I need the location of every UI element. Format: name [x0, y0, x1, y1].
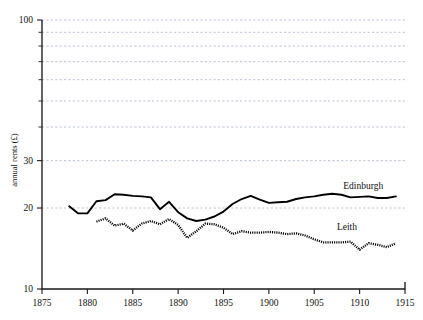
x-tick-label-1895: 1895	[214, 298, 233, 308]
y-tick-label-100: 100	[19, 15, 34, 25]
y-tick-label-30: 30	[24, 156, 34, 166]
x-tick-label-1900: 1900	[259, 298, 278, 308]
chart-canvas: 102030100 187518801885189018951900190519…	[0, 0, 423, 320]
series-label-edinburgh: Edinburgh	[343, 181, 383, 191]
x-tick-label-1875: 1875	[33, 298, 52, 308]
y-tick-label-10: 10	[24, 284, 34, 294]
y-axis-title: annual rents (£)	[9, 133, 19, 187]
x-tick-label-1910: 1910	[350, 298, 369, 308]
y-axis-tick-labels: 102030100	[19, 15, 34, 294]
series-label-leith: Leith	[337, 222, 357, 232]
x-tick-label-1905: 1905	[305, 298, 324, 308]
x-axis-ticks	[42, 289, 405, 294]
x-tick-label-1915: 1915	[396, 298, 415, 308]
x-tick-label-1890: 1890	[169, 298, 188, 308]
x-tick-label-1880: 1880	[78, 298, 97, 308]
x-tick-label-1885: 1885	[123, 298, 142, 308]
rent-chart: 102030100 187518801885189018951900190519…	[0, 0, 423, 320]
y-axis-ticks	[37, 20, 42, 289]
axis-lines	[42, 20, 405, 289]
x-axis-tick-labels: 187518801885189018951900190519101915	[33, 298, 415, 308]
series-line-edinburgh	[69, 194, 396, 221]
y-tick-label-20: 20	[24, 203, 34, 213]
chart-axes	[42, 20, 405, 289]
series-labels: EdinburghLeith	[337, 181, 384, 232]
